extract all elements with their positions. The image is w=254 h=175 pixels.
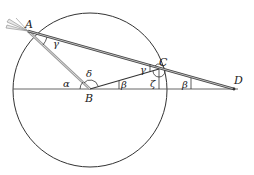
label-beta-D: β	[181, 79, 188, 90]
label-alpha: α	[63, 78, 70, 89]
label-C: C	[159, 56, 168, 69]
label-beta-B: β	[120, 79, 127, 90]
circle	[13, 13, 167, 167]
label-A: A	[24, 18, 33, 31]
label-gamma-C: γ	[140, 64, 146, 75]
label-gamma-A: γ	[53, 38, 59, 49]
label-delta: δ	[86, 68, 92, 79]
label-zeta: ζ	[150, 78, 156, 89]
angle-arc-gamma-A	[43, 37, 47, 45]
geometry-figure: A B C D γ α δ γ β ζ β	[0, 0, 254, 175]
point-D-dot	[233, 88, 236, 91]
label-B: B	[84, 92, 93, 105]
angle-arc-alpha	[80, 82, 83, 89]
label-D: D	[233, 74, 243, 87]
